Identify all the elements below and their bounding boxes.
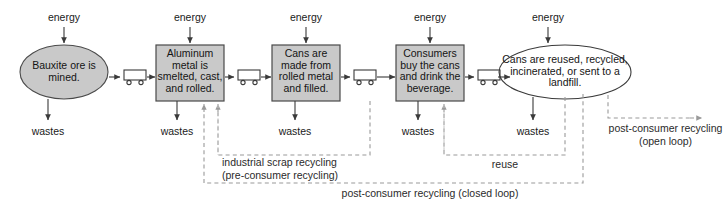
energy-label-consumers: energy xyxy=(400,12,460,24)
node-label-consumers: Consumers buy the cans and drink the bev… xyxy=(396,48,464,94)
waste-label-end-of-life: wastes xyxy=(503,126,563,138)
energy-label-bauxite: energy xyxy=(34,12,94,24)
transport-link-cans-made-consumers xyxy=(341,70,395,85)
truck-icon xyxy=(124,70,146,85)
life-cycle-diagram: energy energy energy energy energy Bauxi… xyxy=(0,0,723,213)
node-label-end-of-life: Cans are reused, recycled, incinerated, … xyxy=(498,54,632,89)
energy-arrows xyxy=(64,27,548,43)
loop-label-reuse: reuse xyxy=(470,158,540,171)
node-label-cans-made: Cans are made from rolled metal and fill… xyxy=(272,48,340,94)
waste-label-bauxite: wastes xyxy=(18,126,78,138)
waste-label-cans-made: wastes xyxy=(265,126,325,138)
waste-label-consumers: wastes xyxy=(388,126,448,138)
loop-label-industrial-scrap: industrial scrap recycling (pre-consumer… xyxy=(222,156,442,181)
truck-icon xyxy=(354,70,376,85)
transport-link-bauxite-smelting xyxy=(109,70,155,85)
energy-label-cans-made: energy xyxy=(276,12,336,24)
transport-link-smelting-cans-made xyxy=(225,70,271,85)
truck-icon xyxy=(238,70,260,85)
loop-label-open: post-consumer recycling (open loop) xyxy=(608,122,723,147)
diagram-canvas xyxy=(0,0,723,213)
waste-label-smelting: wastes xyxy=(147,126,207,138)
node-label-smelting: Aluminum metal is smelted, cast, and rol… xyxy=(156,48,224,94)
energy-label-smelting: energy xyxy=(160,12,220,24)
loop-label-closed: post-consumer recycling (closed loop) xyxy=(270,187,590,200)
energy-label-end-of-life: energy xyxy=(518,12,578,24)
truck-icon xyxy=(478,70,500,85)
loop-open xyxy=(608,95,702,118)
node-label-bauxite: Bauxite ore is mined. xyxy=(20,60,108,83)
